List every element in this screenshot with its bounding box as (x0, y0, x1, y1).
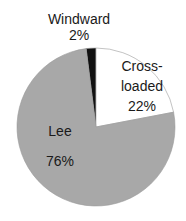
label-windward: Windward 2% (44, 11, 114, 43)
label-cross-pct: 22% (114, 98, 170, 114)
label-cross-name: Cross- (114, 58, 170, 74)
label-lee-pct: 76% (30, 153, 90, 169)
label-windward-pct: 2% (44, 27, 114, 43)
label-lee: Lee 76% (30, 123, 90, 169)
label-lee-name: Lee (30, 123, 90, 139)
label-windward-name: Windward (44, 11, 114, 27)
label-cross-loaded: Cross- loaded 22% (114, 58, 170, 114)
label-cross-name-2: loaded (114, 78, 170, 94)
